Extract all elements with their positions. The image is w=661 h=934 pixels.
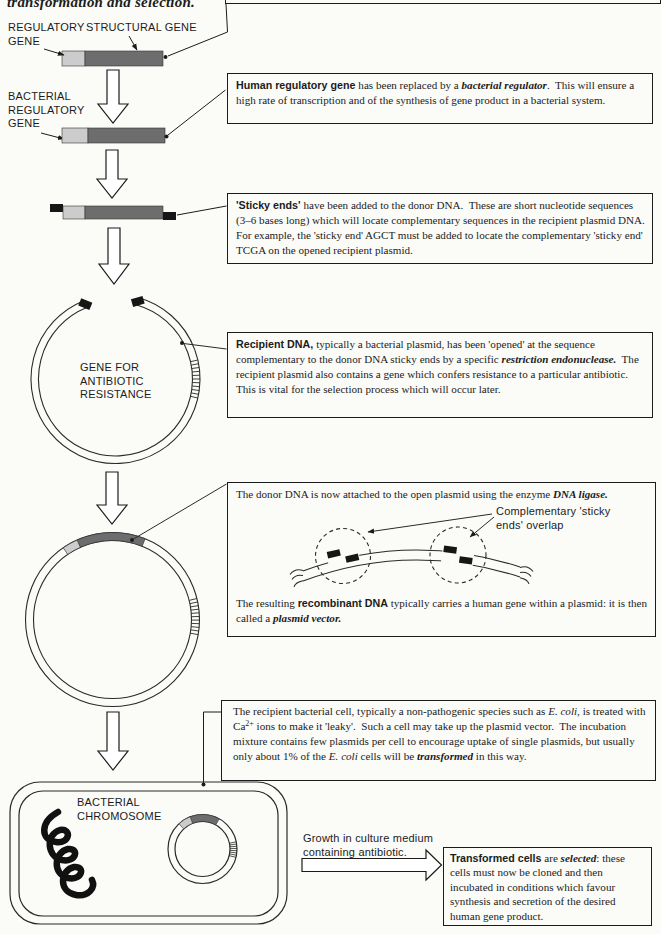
mini-plasmid: [168, 814, 237, 883]
mini-plasmid-outer-ring: [168, 815, 237, 884]
recombinant-plasmid: [26, 484, 227, 707]
info-box-cutoff-top: [225, 0, 661, 4]
structural-segment-3: [85, 206, 163, 219]
down-arrow-2: [97, 150, 127, 198]
mini-plasmid-inner-ring: [175, 822, 230, 877]
label-bacterial-chromosome: BACTERIAL CHROMOSOME: [77, 796, 162, 823]
structural-gene-segment: [85, 51, 163, 66]
donor-dna-bar: [62, 51, 163, 66]
label-sticky-overlap: Complementary 'sticky ends' overlap: [496, 505, 611, 532]
down-arrow-3: [99, 228, 129, 284]
regulatory-gene-segment: [62, 51, 85, 66]
human-regulator-box-leader: [165, 90, 226, 139]
text-human-regulator: Human regulatory gene has been replaced …: [236, 78, 648, 108]
down-arrow-1: [98, 70, 128, 123]
text-sticky-ends: 'Sticky ends' have been added to the don…: [236, 198, 648, 258]
inserted-human-gene-segment: [77, 532, 145, 547]
text-recipient-dna: Recipient DNA, typically a bacterial pla…: [236, 337, 650, 397]
sticky-end-right: [163, 212, 176, 220]
cell-box-leader: [202, 712, 222, 787]
plasmid-sticky-end-left: [78, 298, 92, 310]
label-growth-medium: Growth in culture medium containing anti…: [303, 832, 433, 859]
diagram-artwork: [0, 0, 661, 934]
sticky-end-dna-bar: [50, 204, 227, 220]
structural-gene-segment-2: [88, 128, 165, 143]
mini-plasmid-hatch: [229, 842, 237, 858]
label-regulatory-gene: REGULATORY GENE: [8, 21, 85, 48]
sticky-box-leader: [177, 206, 227, 215]
bacterial-chromosome-squiggle: [44, 812, 93, 895]
label-antibiotic-resistance-gene: GENE FOR ANTIBIOTIC RESISTANCE: [80, 361, 151, 402]
genetic-engineering-flow-diagram: transformation and selection. REGULATORY…: [0, 0, 661, 934]
intro-sentence-fragment: transformation and selection.: [7, 0, 195, 11]
text-transformation: The recipient bacterial cell, typically …: [233, 704, 649, 764]
plasmid-sticky-end-right: [131, 296, 145, 307]
antibiotic-gene-hatch: [191, 360, 201, 398]
recombinant-plasmid-outer-ring: [26, 533, 200, 707]
text-dna-ligase: The donor DNA is now attached to the ope…: [236, 487, 650, 502]
text-plasmid-vector: The resulting recombinant DNA typically …: [236, 596, 650, 626]
inserted-regulator-segment: [63, 540, 80, 554]
recipient-box-leader: [184, 344, 227, 350]
regulatory-segment-3: [63, 206, 85, 219]
label-bacterial-regulatory-gene: BACTERIAL REGULATORY GENE: [8, 90, 85, 131]
ligase-box-leader: [134, 484, 227, 539]
recombinant-plasmid-inner-ring: [34, 541, 192, 699]
mini-plasmid-regulator-segment: [179, 817, 193, 829]
sticky-end-left: [50, 204, 63, 212]
down-arrow-4: [97, 472, 127, 524]
mini-plasmid-gene-segment: [190, 814, 219, 824]
text-selection: Transformed cells are selected: these ce…: [450, 851, 646, 923]
down-arrow-5: [98, 712, 128, 770]
antibiotic-gene-hatch-2: [189, 599, 199, 635]
label-structural-gene: STRUCTURAL GENE: [86, 21, 197, 35]
